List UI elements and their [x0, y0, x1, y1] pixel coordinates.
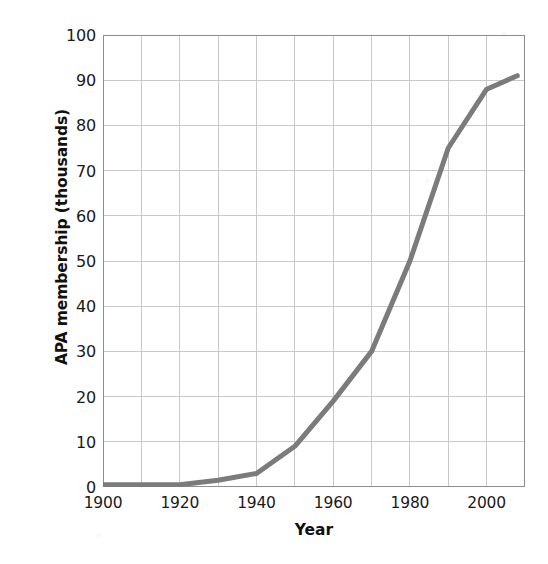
plot-area [103, 35, 525, 487]
plot-svg [103, 35, 525, 487]
series-apa-membership [103, 76, 517, 485]
x-axis-title: Year [103, 521, 525, 539]
x-tick-label: 1960 [314, 494, 353, 512]
gridlines [103, 35, 525, 487]
x-tick-label: 2000 [467, 494, 506, 512]
chart-figure: APA membership (thousands) 0102030405060… [0, 0, 548, 564]
x-tick-label: 1980 [391, 494, 430, 512]
data-series-line [103, 76, 517, 485]
x-tick-label: 1940 [237, 494, 276, 512]
x-tick-label: 1900 [84, 494, 123, 512]
x-tick-label: 1920 [160, 494, 199, 512]
